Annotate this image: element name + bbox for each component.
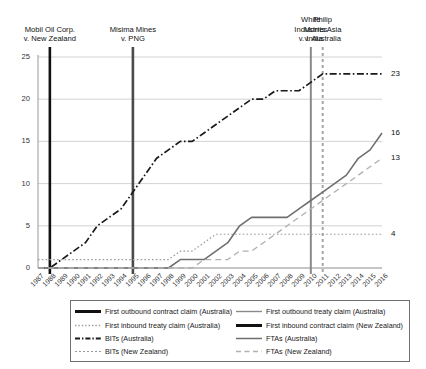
chart-legend: First outbound contract claim (Australia… bbox=[70, 300, 410, 362]
y-tick-label: 25 bbox=[14, 52, 30, 61]
event-annotation-philip-morris: PhilipMorris Asiav. Australia bbox=[273, 15, 373, 44]
y-tick-label: 10 bbox=[14, 179, 30, 188]
series-line bbox=[38, 74, 382, 268]
legend-swatch-icon bbox=[236, 334, 262, 343]
y-tick-label: 0 bbox=[14, 263, 30, 272]
chart-page: Mobil Oil Corp.v. New ZealandMisima Mine… bbox=[0, 0, 426, 369]
legend-label: First outbound contract claim (Australia… bbox=[105, 307, 232, 316]
legend-label: BITs (Australia) bbox=[105, 334, 154, 343]
legend-swatch-icon bbox=[236, 307, 262, 316]
event-label-line: Misima Mines bbox=[83, 25, 183, 35]
legend-swatch-icon bbox=[75, 307, 101, 316]
series-line bbox=[38, 133, 382, 268]
legend-label: First inbound contract claim (New Zealan… bbox=[266, 321, 403, 330]
event-annotation-misima-mines: Misima Minesv. PNG bbox=[83, 25, 183, 44]
y-tick-label: 5 bbox=[14, 221, 30, 230]
chart-plot-area bbox=[0, 0, 426, 295]
legend-swatch-icon bbox=[75, 334, 101, 343]
chart-svg bbox=[0, 0, 426, 295]
event-label-line: v. Australia bbox=[273, 34, 373, 44]
legend-item: FTAs (Australia) bbox=[236, 334, 415, 343]
series-end-label: 16 bbox=[391, 128, 400, 137]
event-label-line: v. PNG bbox=[83, 34, 183, 44]
legend-swatch-icon bbox=[236, 347, 262, 356]
legend-label: FTAs (Australia) bbox=[266, 334, 317, 343]
y-tick-label: 20 bbox=[14, 94, 30, 103]
legend-label: BITs (New Zealand) bbox=[105, 347, 168, 356]
legend-item: First inbound treaty claim (Australia) bbox=[75, 321, 236, 330]
legend-item: BITs (Australia) bbox=[75, 334, 236, 343]
series-end-label: 4 bbox=[391, 229, 395, 238]
event-label-line: Philip bbox=[273, 15, 373, 25]
legend-item: BITs (New Zealand) bbox=[75, 347, 236, 356]
legend-item: First outbound contract claim (Australia… bbox=[75, 307, 236, 316]
series-end-label: 23 bbox=[391, 69, 400, 78]
series-end-label: 13 bbox=[391, 153, 400, 162]
legend-swatch-icon bbox=[236, 321, 262, 330]
y-tick-label: 15 bbox=[14, 136, 30, 145]
legend-label: First outbound treaty claim (Australia) bbox=[266, 307, 385, 316]
legend-swatch-icon bbox=[75, 347, 101, 356]
legend-item: FTAs (New Zealand) bbox=[236, 347, 415, 356]
legend-swatch-icon bbox=[75, 321, 101, 330]
event-label-line: Morris Asia bbox=[273, 25, 373, 35]
legend-item: First outbound treaty claim (Australia) bbox=[236, 307, 415, 316]
legend-label: First inbound treaty claim (Australia) bbox=[105, 321, 220, 330]
legend-item: First inbound contract claim (New Zealan… bbox=[236, 321, 415, 330]
series-line bbox=[38, 158, 382, 268]
legend-label: FTAs (New Zealand) bbox=[266, 347, 332, 356]
